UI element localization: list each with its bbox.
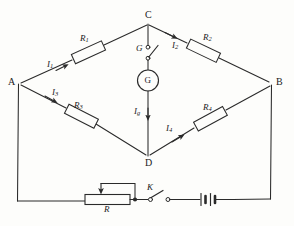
rheostat-label-r-text: R <box>104 204 110 214</box>
resistor-r1-body <box>71 41 105 64</box>
resistor-label-r3-sub: 3 <box>80 103 83 110</box>
current-label-i2: I2 <box>172 41 178 51</box>
rheostat-body <box>85 195 130 205</box>
rheostat-label-r: R <box>104 205 110 214</box>
current-label-i3: I3 <box>52 88 58 98</box>
current-label-i1: I1 <box>47 60 53 70</box>
current-label-ig: Ig <box>134 107 140 117</box>
resistor-label-r2-sub: 2 <box>209 35 212 42</box>
galvanometer-key-label: G <box>136 44 143 53</box>
resistor-label-r4: R4 <box>203 103 212 113</box>
resistor-label-r3: R3 <box>74 101 83 111</box>
resistor-label-r1-sub: 1 <box>86 36 89 43</box>
current-label-ig-sub: g <box>137 109 140 116</box>
battery-body <box>201 194 215 206</box>
resistor-label-r2: R2 <box>203 33 212 43</box>
outer-loop-right-wire <box>233 85 272 200</box>
node-label-d: D <box>145 158 152 168</box>
galvanometer-label: G <box>145 76 152 85</box>
node-label-b: B <box>276 77 283 87</box>
node-label-c: C <box>145 10 152 20</box>
rheostat-junction-dot <box>133 197 137 201</box>
current-arrow-i2 <box>165 33 175 38</box>
circuit-diagram-canvas: A B C D R1 R2 R3 R4 R G G K I1 I2 I3 I4 … <box>0 0 294 226</box>
node-label-a: A <box>8 77 15 87</box>
current-label-i2-sub: 2 <box>175 43 178 50</box>
switch-k-terminals[interactable] <box>149 198 171 202</box>
resistor-label-r1: R1 <box>80 34 89 44</box>
circuit-schematic-svg <box>0 0 294 226</box>
galvanometer-key-terminals[interactable] <box>146 45 150 60</box>
current-label-i1-sub: 1 <box>50 62 53 69</box>
current-label-i4-sub: 4 <box>169 126 172 133</box>
current-label-i4: I4 <box>166 124 172 134</box>
switch-k-label: K <box>147 183 153 192</box>
resistor-label-r4-sub: 4 <box>209 105 212 112</box>
current-label-i3-sub: 3 <box>55 90 58 97</box>
current-arrow-i4 <box>172 136 182 142</box>
